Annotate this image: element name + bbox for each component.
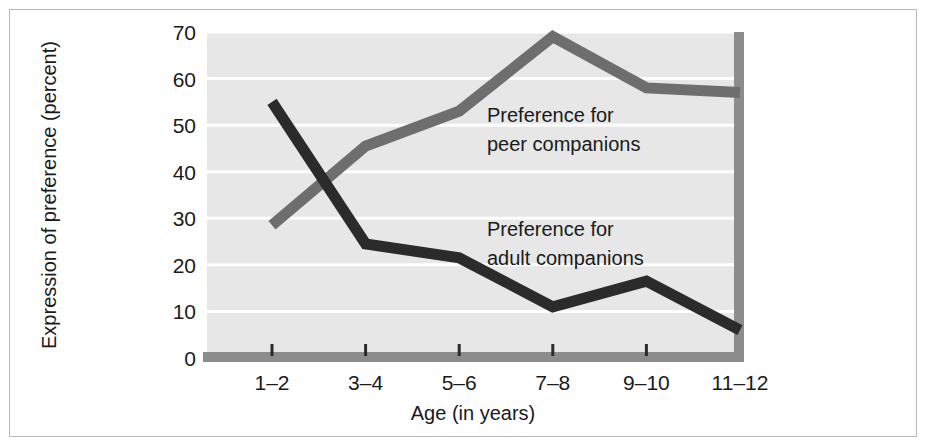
plot-background	[207, 32, 740, 358]
peer-series-annotation-line1: Preference for	[487, 104, 614, 126]
peer-series-annotation-line2: peer companions	[487, 133, 640, 155]
y-tick-label: 0	[184, 347, 196, 370]
y-tick-label: 20	[173, 254, 196, 277]
adult-series-annotation-line2: adult companions	[487, 247, 644, 269]
x-tick-label: 7–8	[535, 371, 570, 394]
line-chart: 010203040506070 1–23–45–67–89–1011–12 Ex…	[0, 0, 929, 448]
x-axis-bar	[203, 352, 744, 362]
y-tick-label: 60	[173, 68, 196, 91]
x-tick-label: 3–4	[348, 371, 383, 394]
adult-series-annotation-line1: Preference for	[487, 218, 614, 240]
y-axis-title: Expression of preference (percent)	[38, 41, 60, 349]
x-axis-title: Age (in years)	[411, 402, 536, 424]
y-tick-label: 50	[173, 114, 196, 137]
x-tick-label: 9–10	[623, 371, 670, 394]
x-tick-label: 1–2	[254, 371, 289, 394]
y-tick-labels: 010203040506070	[173, 21, 196, 370]
x-tick-label: 5–6	[442, 371, 477, 394]
y-tick-label: 30	[173, 207, 196, 230]
y-tick-label: 10	[173, 300, 196, 323]
chart-svg: 010203040506070 1–23–45–67–89–1011–12 Ex…	[0, 0, 929, 448]
x-tick-labels: 1–23–45–67–89–1011–12	[254, 371, 768, 394]
y-tick-label: 40	[173, 161, 196, 184]
right-axis-bar	[734, 32, 744, 358]
x-tick-label: 11–12	[712, 371, 769, 394]
y-tick-label: 70	[173, 21, 196, 44]
